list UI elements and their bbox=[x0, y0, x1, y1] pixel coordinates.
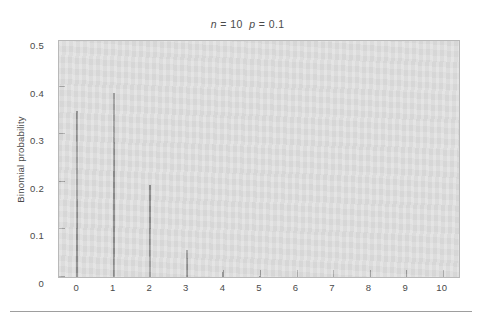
x-tick-label: 10 bbox=[436, 282, 447, 293]
chart-title: n = 10 p = 0.1 bbox=[0, 6, 482, 42]
x-tick-label: 2 bbox=[147, 282, 153, 293]
bar bbox=[113, 93, 115, 277]
y-tick-mark bbox=[59, 228, 65, 229]
y-tick-mark bbox=[59, 133, 65, 134]
x-tick-label: 6 bbox=[293, 282, 299, 293]
x-tick-mark bbox=[333, 270, 334, 277]
x-tick-mark bbox=[370, 270, 371, 277]
x-tick-mark bbox=[297, 270, 298, 277]
bar bbox=[259, 276, 261, 277]
x-tick-label: 5 bbox=[256, 282, 262, 293]
title-p-value: = 0.1 bbox=[256, 18, 285, 30]
title-n-value: = 10 bbox=[217, 18, 249, 30]
bar bbox=[149, 185, 151, 277]
x-tick-label: 4 bbox=[220, 282, 226, 293]
x-tick-label: 1 bbox=[110, 282, 116, 293]
x-tick-label: 8 bbox=[366, 282, 372, 293]
bar bbox=[186, 250, 188, 277]
y-tick-mark bbox=[59, 86, 65, 87]
y-tick-mark bbox=[59, 181, 65, 182]
x-tick-label: 7 bbox=[329, 282, 335, 293]
x-tick-label: 0 bbox=[73, 282, 79, 293]
bar bbox=[222, 272, 224, 277]
figure: n = 10 p = 0.1 Binomial probability 00.1… bbox=[0, 0, 482, 326]
y-axis-tick-labels: 00.10.20.30.40.5 bbox=[0, 40, 52, 278]
x-axis-tick-labels: 012345678910 bbox=[58, 282, 460, 298]
x-tick-mark bbox=[406, 270, 407, 277]
footer-rule bbox=[10, 311, 472, 312]
bar bbox=[76, 111, 78, 277]
plot-area bbox=[58, 40, 460, 278]
x-tick-mark bbox=[443, 270, 444, 277]
x-tick-label: 9 bbox=[402, 282, 408, 293]
y-tick-mark bbox=[59, 276, 65, 277]
x-tick-label: 3 bbox=[183, 282, 189, 293]
